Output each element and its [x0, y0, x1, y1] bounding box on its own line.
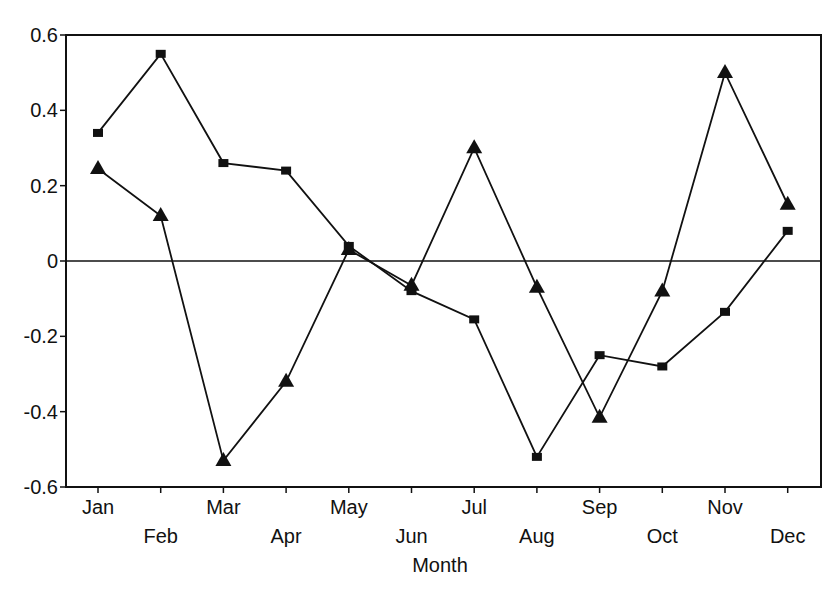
x-tick-label-jun: Jun	[395, 525, 427, 547]
series-triangle	[90, 64, 796, 466]
y-tick-label: -0.2	[24, 325, 58, 347]
series-layer	[90, 50, 796, 466]
x-tick-label-oct: Oct	[647, 525, 679, 547]
square-marker	[218, 159, 228, 167]
square-marker	[595, 351, 605, 359]
x-axis: JanFebMarAprMayJunJulAugSepOctNovDec	[82, 487, 806, 547]
triangle-marker	[404, 277, 420, 291]
triangle-marker	[780, 196, 796, 210]
triangle-marker	[341, 241, 357, 255]
square-marker	[783, 227, 793, 235]
triangle-marker	[654, 282, 670, 296]
x-axis-title: Month	[412, 554, 468, 576]
square-marker	[156, 50, 166, 58]
square-marker	[657, 362, 667, 370]
y-tick-label: -0.6	[24, 476, 58, 498]
y-tick-label: 0.2	[30, 175, 58, 197]
series-line-triangle	[98, 73, 788, 461]
square-marker	[93, 129, 103, 137]
triangle-marker	[153, 207, 169, 221]
square-marker	[469, 315, 479, 323]
line-chart: pp 0.60.40.20-0.2-0.4-0.6 JanFebMarAprMa…	[0, 0, 836, 610]
square-marker	[532, 453, 542, 461]
y-tick-label: 0.6	[30, 24, 58, 46]
x-tick-label-jul: Jul	[461, 496, 487, 518]
y-axis: 0.60.40.20-0.2-0.4-0.6	[24, 24, 66, 498]
triangle-marker	[90, 160, 106, 174]
triangle-marker	[717, 64, 733, 78]
square-marker	[720, 308, 730, 316]
triangle-marker	[529, 279, 545, 293]
x-tick-label-nov: Nov	[707, 496, 743, 518]
x-tick-label-feb: Feb	[143, 525, 177, 547]
x-tick-label-jan: Jan	[82, 496, 114, 518]
series-square	[93, 50, 793, 461]
x-tick-label-dec: Dec	[770, 525, 806, 547]
x-tick-label-may: May	[330, 496, 368, 518]
triangle-marker	[466, 139, 482, 153]
x-tick-label-mar: Mar	[206, 496, 241, 518]
series-line-square	[98, 54, 788, 457]
y-tick-label: 0	[47, 250, 58, 272]
y-tick-label: -0.4	[24, 401, 58, 423]
x-tick-label-sep: Sep	[582, 496, 618, 518]
square-marker	[281, 167, 291, 175]
triangle-marker	[278, 373, 294, 387]
y-tick-label: 0.4	[30, 99, 58, 121]
triangle-marker	[592, 409, 608, 423]
x-tick-label-apr: Apr	[271, 525, 302, 547]
x-tick-label-aug: Aug	[519, 525, 555, 547]
